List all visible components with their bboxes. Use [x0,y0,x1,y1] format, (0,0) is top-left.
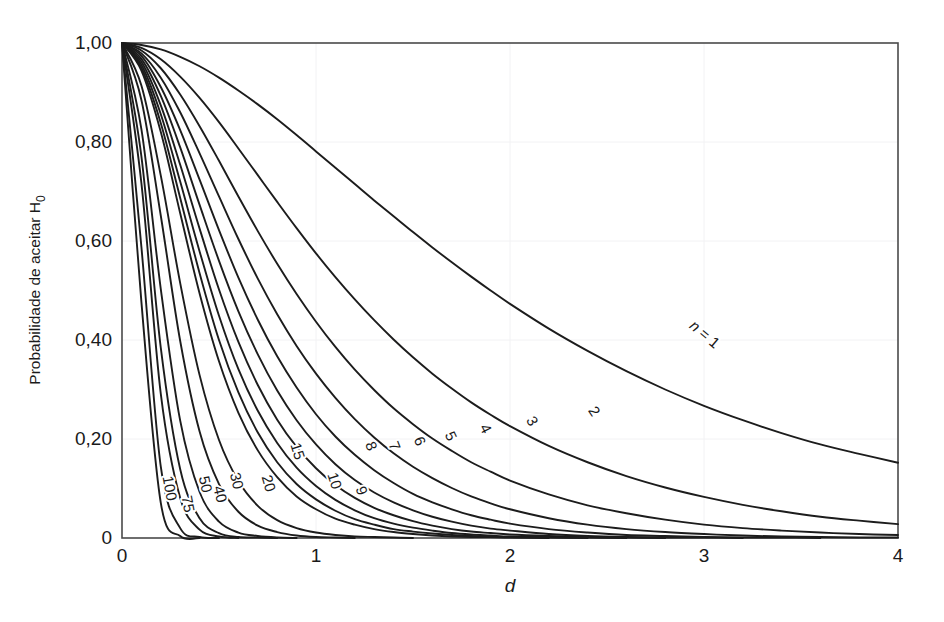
curve-label-text: 5 [442,428,461,443]
curve-label-text: 10 [324,470,345,491]
curve-label-5: 55 [442,428,461,443]
oc-curve-figure: n = 1n = 1223344556677889910101515202030… [0,0,944,622]
x-tick-label: 3 [699,545,710,566]
curve-label-8: 88 [362,439,381,453]
curve-label-1: n = 1n = 1 [687,317,724,352]
y-tick-label: 0,80 [75,131,112,152]
y-axis-tick-labels: 00,200,400,600,801,00 [75,32,112,548]
chart-canvas: n = 1n = 1223344556677889910101515202030… [0,0,944,622]
curve-label-text: 30 [227,471,248,491]
curve-label-text: 75 [179,494,199,514]
curve-label-text: 6 [411,434,430,448]
curve-label-4: 44 [477,421,496,436]
curve-label-7: 77 [386,439,405,453]
curve-label-text: 20 [259,473,280,494]
gridlines [122,43,898,538]
x-tick-label: 0 [117,545,128,566]
curve-label-10: 1010 [324,470,345,491]
curve-label-text: 8 [362,439,381,453]
y-tick-label: 0,40 [75,329,112,350]
curve-label-text: 2 [585,403,604,419]
curve-label-text: 50 [196,474,216,494]
y-tick-label: 0,20 [75,428,112,449]
curve-label-100: 100100 [160,474,181,502]
y-axis-title-main: Probabilidade de aceitar H [26,202,43,385]
curve-label-30: 3030 [227,471,248,491]
oc-curve-n-8 [122,43,626,538]
oc-curve-n-9 [122,43,588,538]
y-tick-label: 1,00 [75,32,112,53]
curve-label-3: 33 [523,413,542,429]
curve-label-text: n = 1 [687,317,724,352]
curve-label-text: 7 [386,439,405,453]
y-axis-title-subscript: 0 [34,195,48,202]
x-axis-title: d [505,575,517,596]
curve-label-20: 2020 [259,473,280,494]
curve-labels-group: n = 1n = 1223344556677889910101515202030… [160,317,724,514]
curve-label-2: 22 [585,403,604,419]
curve-label-text: 100 [160,474,181,502]
x-tick-label: 1 [311,545,322,566]
curve-label-6: 66 [411,434,430,448]
x-axis-tick-labels: 01234 [117,545,904,566]
curve-label-text: 3 [523,413,542,429]
curve-label-50: 5050 [196,474,216,494]
y-tick-label: 0,60 [75,230,112,251]
curve-label-9: 99 [353,484,372,497]
curve-label-text: 4 [477,421,496,436]
y-tick-label: 0 [101,527,112,548]
curve-label-text: 9 [353,484,372,497]
x-tick-label: 4 [893,545,904,566]
y-axis-title-text: Probabilidade de aceitar H0 [26,195,48,385]
oc-curve-n-5 [122,43,820,538]
x-tick-label: 2 [505,545,516,566]
curve-label-75: 7575 [179,494,199,514]
y-axis-title: Probabilidade de aceitar H0 [26,195,48,385]
